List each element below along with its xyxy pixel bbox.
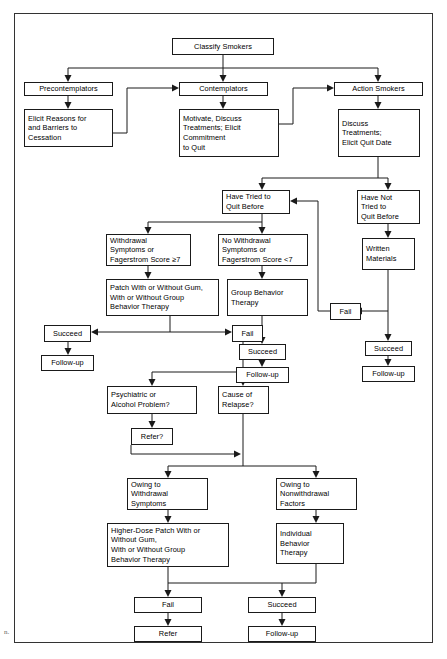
node-refer-question[interactable]: Refer? [131,428,173,445]
node-followup-mid[interactable]: Follow-up [236,367,289,383]
node-refer-bottom[interactable]: Refer [134,626,202,642]
node-followup-bottom[interactable]: Follow-up [248,626,316,642]
node-higher-dose-patch[interactable]: Higher-Dose Patch With or Without Gum, W… [107,523,229,567]
node-contemplators[interactable]: Contemplators [179,82,268,96]
node-patch-therapy[interactable]: Patch With or Without Gum, With or Witho… [106,279,219,316]
node-fail-right[interactable]: Fail [330,303,361,320]
node-classify-smokers[interactable]: Classify Smokers [172,38,274,55]
node-precontemplators[interactable]: Precontemplators [24,82,113,96]
node-owing-nonwithdrawal[interactable]: Owing to Nonwithdrawal Factors [276,478,357,510]
node-written-materials[interactable]: Written Materials [362,238,415,270]
node-psychiatric-problem[interactable]: Psychiatric or Alcohol Problem? [107,386,197,414]
node-owing-withdrawal[interactable]: Owing to Withdrawal Symptoms [127,478,208,510]
node-cause-of-relapse[interactable]: Cause of Relapse? [218,386,269,414]
node-fail-bottom[interactable]: Fail [134,597,202,613]
node-no-withdrawal-symptoms[interactable]: No Withdrawal Symptoms or Fagerstrom Sco… [218,234,308,266]
node-individual-behavior-therapy[interactable]: Individual Behavior Therapy [276,523,344,564]
node-action-smokers[interactable]: Action Smokers [334,82,423,96]
node-motivate-discuss[interactable]: Motivate, Discuss Treatments; Elicit Com… [179,109,279,157]
node-elicit-reasons[interactable]: Elicit Reasons for and Barriers to Cessa… [24,109,113,147]
node-followup-right[interactable]: Follow-up [362,366,415,382]
node-succeed-bottom[interactable]: Succeed [248,597,316,613]
node-fail-center[interactable]: Fail [232,325,263,342]
node-discuss-treatments[interactable]: Discuss Treatments; Elicit Quit Date [338,109,420,157]
node-succeed-mid[interactable]: Succeed [239,344,286,360]
node-have-not-tried-quit[interactable]: Have Not Tried to Quit Before [357,190,420,224]
node-group-behavior-therapy[interactable]: Group Behavior Therapy [227,279,308,316]
node-followup-left[interactable]: Follow-up [41,355,94,371]
node-succeed-left[interactable]: Succeed [44,325,91,342]
node-withdrawal-symptoms[interactable]: Withdrawal Symptoms or Fagerstrom Score … [106,234,191,266]
node-succeed-right[interactable]: Succeed [365,341,412,356]
node-have-tried-quit[interactable]: Have Tried to Quit Before [222,190,290,214]
